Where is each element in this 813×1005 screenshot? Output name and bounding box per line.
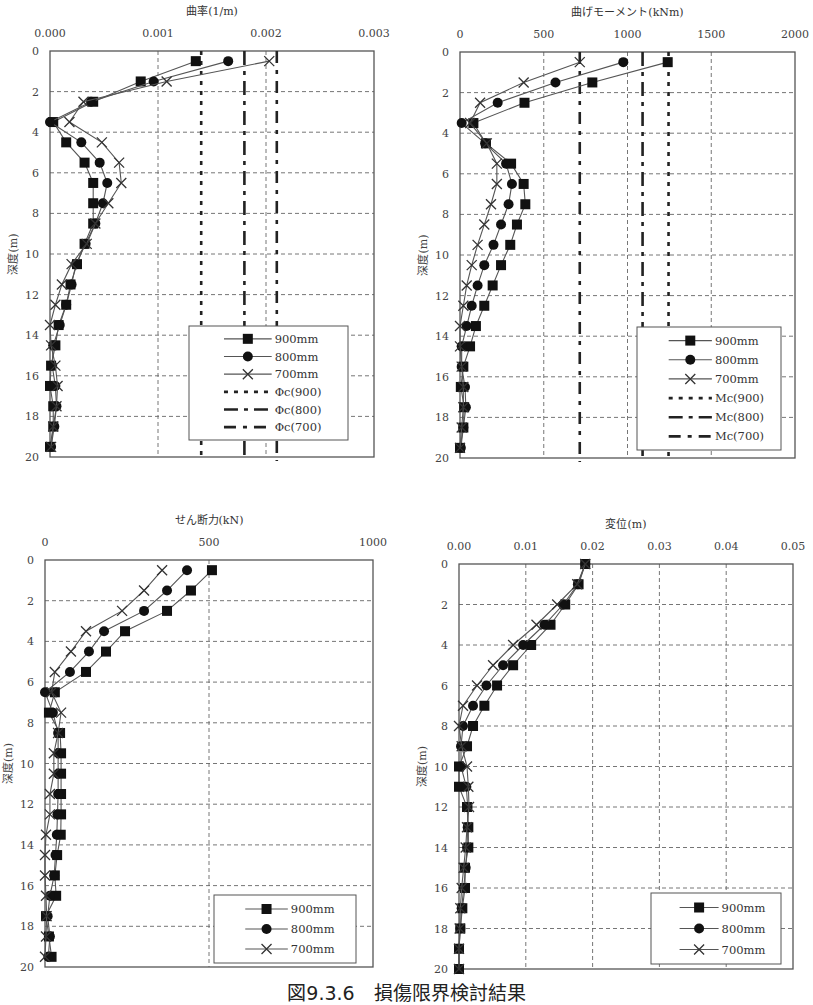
x-marker	[467, 260, 477, 270]
x-marker	[81, 626, 91, 636]
y-axis-label: 深度(m)	[416, 234, 430, 275]
square-marker	[468, 721, 478, 731]
circle-marker	[53, 789, 63, 799]
y-tick-label: 6	[441, 680, 448, 693]
legend: 900mm800mm700mmMc(900)Mc(800)Mc(700)	[637, 327, 781, 450]
x-tick-label: 0.000	[34, 27, 66, 40]
circle-marker	[76, 137, 86, 147]
circle-marker	[459, 883, 469, 893]
y-tick-label: 14	[435, 330, 449, 343]
y-tick-label: 18	[25, 410, 39, 423]
square-marker	[663, 57, 673, 67]
y-tick-label: 14	[25, 329, 39, 342]
y-tick-label: 4	[32, 126, 39, 139]
circle-marker	[558, 600, 568, 610]
circle-marker	[493, 98, 503, 108]
y-tick-label: 0	[27, 554, 34, 567]
y-axis-label: 深度(m)	[6, 233, 20, 274]
circle-marker	[48, 340, 58, 350]
x-tick-label: 1500	[697, 28, 725, 41]
shear-force-chart: せん断力(kN)0500100002468101214161820深度(m)90…	[1, 513, 387, 974]
x-tick-label: 0.002	[250, 27, 282, 40]
circle-marker	[685, 355, 695, 365]
y-tick-label: 10	[25, 248, 39, 261]
y-tick-label: 10	[435, 249, 449, 262]
y-tick-label: 8	[32, 207, 39, 220]
circle-marker	[496, 220, 506, 230]
circle-marker	[507, 179, 517, 189]
circle-marker	[694, 924, 704, 934]
square-marker	[685, 336, 695, 346]
circle-marker	[462, 843, 472, 853]
circle-marker	[223, 56, 233, 66]
x-tick-label: 500	[199, 536, 220, 549]
square-marker	[61, 137, 71, 147]
x-tick-label: 0.003	[358, 27, 390, 40]
square-marker	[191, 56, 201, 66]
circle-marker	[67, 279, 77, 289]
x-marker	[479, 220, 489, 230]
y-tick-label: 2	[441, 599, 448, 612]
circle-marker	[95, 158, 105, 168]
x-marker	[486, 199, 496, 209]
y-axis-label: 深度(m)	[415, 746, 429, 787]
circle-marker	[43, 911, 53, 921]
curvature-chart: 曲率(1/m)0.0000.0010.0020.0030246810121416…	[6, 4, 390, 464]
x-tick-label: 2000	[781, 28, 809, 41]
circle-marker	[55, 320, 65, 330]
circle-marker	[243, 352, 253, 362]
x-tick-label: 0.05	[781, 540, 806, 553]
circle-marker	[52, 830, 62, 840]
y-tick-label: 12	[20, 798, 34, 811]
circle-marker	[49, 870, 59, 880]
circle-marker	[182, 565, 192, 575]
square-marker	[80, 158, 90, 168]
y-tick-label: 0	[442, 46, 449, 59]
x-marker	[519, 77, 529, 87]
y-tick-label: 16	[435, 371, 449, 384]
square-marker	[519, 179, 529, 189]
circle-marker	[540, 620, 550, 630]
legend-label: 800mm	[275, 350, 319, 364]
square-marker	[88, 198, 98, 208]
chart-title: 曲率(1/m)	[186, 4, 238, 18]
legend-label: Mc(700)	[715, 429, 764, 443]
circle-marker	[457, 903, 467, 913]
y-tick-label: 2	[27, 595, 34, 608]
circle-marker	[65, 667, 75, 677]
circle-marker	[461, 863, 471, 873]
legend-label: Mc(900)	[715, 391, 764, 405]
y-tick-label: 8	[442, 208, 449, 221]
square-marker	[101, 647, 111, 657]
square-marker	[694, 903, 704, 913]
legend-label: 800mm	[715, 353, 759, 367]
x-tick-label: 0.01	[514, 540, 539, 553]
x-marker	[50, 300, 60, 310]
square-marker	[496, 260, 506, 270]
circle-marker	[162, 586, 172, 596]
y-tick-label: 18	[435, 411, 449, 424]
y-tick-label: 16	[25, 370, 39, 383]
legend-label: 700mm	[275, 367, 319, 381]
x-tick-label: 0.00	[447, 540, 472, 553]
y-tick-label: 10	[20, 758, 34, 771]
circle-marker	[498, 660, 508, 670]
legend-label: 800mm	[291, 922, 335, 936]
x-marker	[66, 647, 76, 657]
circle-marker	[102, 178, 112, 188]
legend-label: 700mm	[715, 372, 759, 386]
circle-marker	[139, 606, 149, 616]
square-marker	[505, 240, 515, 250]
x-tick-label: 0.001	[142, 27, 174, 40]
legend-label: 700mm	[722, 943, 766, 957]
circle-marker	[61, 300, 71, 310]
circle-marker	[81, 239, 91, 249]
x-tick-label: 500	[533, 28, 554, 41]
legend-label: Mc(800)	[715, 410, 764, 424]
series-line	[461, 62, 623, 448]
circle-marker	[262, 924, 272, 934]
square-marker	[243, 334, 253, 344]
y-tick-label: 2	[442, 87, 449, 100]
x-tick-label: 0.03	[647, 540, 672, 553]
